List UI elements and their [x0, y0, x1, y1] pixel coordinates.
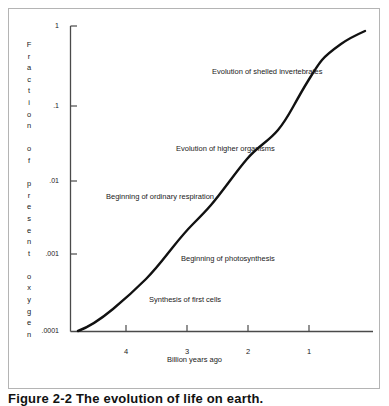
y-title-letter: n — [23, 120, 35, 132]
oxygen-curve — [78, 31, 365, 331]
x-axis-ticks — [126, 325, 309, 332]
y-title-letter: t — [23, 85, 35, 97]
y-tick-label-0p01: .01 — [17, 177, 59, 184]
y-title-letter: r — [23, 190, 35, 202]
y-title-letter: f — [23, 155, 35, 167]
y-tick-label-0p0001: .0001 — [17, 327, 59, 334]
y-title-letter: s — [23, 213, 35, 225]
y-title-letter: r — [23, 51, 35, 63]
y-title-letter: o — [23, 143, 35, 155]
y-title-letter: a — [23, 62, 35, 74]
y-title-letter: F — [23, 39, 35, 51]
y-title-letter: o — [23, 271, 35, 283]
y-title-letter: e — [23, 225, 35, 237]
y-title-letter: c — [23, 74, 35, 86]
y-tick-label-0p1: .1 — [17, 102, 59, 109]
annotation-photosynthesis: Beginning of photosynthesis — [181, 254, 275, 263]
y-title-letter: e — [23, 201, 35, 213]
y-title-letter: n — [23, 236, 35, 248]
plot-area: F r a c t i o n . o f . p r e s e n t . — [9, 9, 379, 388]
figure-frame: F r a c t i o n . o f . p r e s e n t . — [8, 8, 380, 389]
figure-caption: Figure 2-2 The evolution of life on eart… — [8, 391, 381, 406]
y-axis-ticks — [71, 26, 78, 254]
y-axis-title: F r a c t i o n . o f . p r e s e n t . — [23, 39, 35, 340]
y-tick-label-0p001: .001 — [17, 250, 59, 257]
annotation-shelled-invertebrates: Evolution of shelled invertebrates — [212, 67, 322, 76]
y-title-letter: o — [23, 109, 35, 121]
annotation-higher-organisms: Evolution of higher organisms — [176, 144, 275, 153]
y-title-letter: x — [23, 282, 35, 294]
x-axis-title: Billion years ago — [0, 355, 389, 364]
annotation-first-cells: Synthesis of first cells — [149, 295, 221, 304]
y-title-letter: g — [23, 306, 35, 318]
annotation-ordinary-respiration: Beginning of ordinary respiration — [106, 192, 214, 201]
y-title-letter: y — [23, 294, 35, 306]
y-tick-label-1: 1 — [17, 22, 59, 29]
